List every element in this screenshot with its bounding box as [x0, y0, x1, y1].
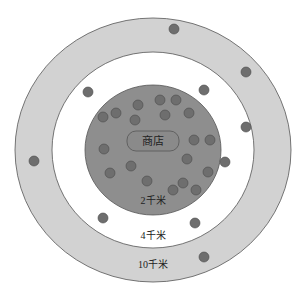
customer-dot [105, 168, 115, 178]
customer-dot [205, 135, 215, 145]
customer-dot [111, 108, 121, 118]
ring-label-4km: 4千米 [141, 229, 166, 241]
customer-dot [203, 167, 213, 177]
store-label: 商店 [142, 134, 164, 147]
store-marker: 商店 [127, 131, 179, 151]
customer-dot [178, 178, 188, 188]
customer-dot [99, 144, 109, 154]
customer-dot [241, 67, 251, 77]
customer-dot [155, 95, 165, 105]
customer-dot [142, 176, 152, 186]
ring-label-2km: 2千米 [141, 194, 166, 206]
customer-dot [83, 87, 93, 97]
customer-dot [168, 185, 178, 195]
customer-dot [191, 185, 201, 195]
customer-dot [199, 252, 209, 262]
customer-dot [190, 218, 200, 228]
customer-dot [199, 85, 209, 95]
customer-dot [220, 157, 230, 167]
customer-dot [171, 95, 181, 105]
customer-dot [182, 154, 192, 164]
trade-area-diagram: 商店 2千米 4千米 10千米 [0, 0, 307, 289]
customer-dot [98, 112, 108, 122]
customer-dot [184, 108, 194, 118]
ring-label-10km: 10千米 [138, 258, 168, 270]
customer-dot [189, 135, 199, 145]
customer-dot [98, 213, 108, 223]
customer-dot [29, 156, 39, 166]
customer-dot [130, 115, 140, 125]
customer-dot [126, 161, 136, 171]
customer-dot [169, 24, 179, 34]
customer-dot [160, 110, 170, 120]
customer-dot [241, 122, 251, 132]
customer-dot [133, 100, 143, 110]
